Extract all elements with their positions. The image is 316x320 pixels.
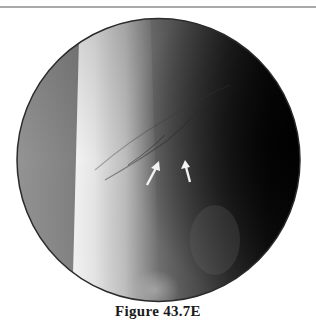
figure-caption: Figure 43.7E	[0, 303, 316, 320]
